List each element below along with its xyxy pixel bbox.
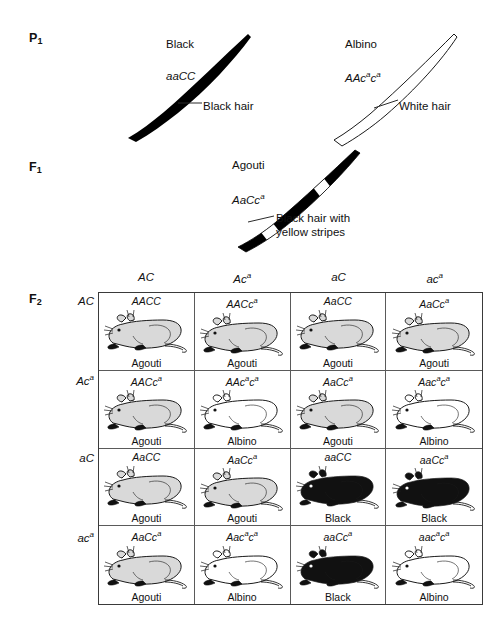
generation-label-f1: F1	[29, 160, 42, 174]
punnett-cell-7: Aacaca Albino	[386, 371, 482, 449]
f2-letter: F	[29, 292, 37, 306]
punnett-cell-genotype: AaCca	[227, 451, 257, 466]
punnett-cell-phenotype: Albino	[195, 591, 290, 603]
punnett-cell-14: aaCca Black	[291, 526, 387, 604]
punnett-cell-12: AaCca Agouti	[99, 526, 195, 604]
agouti-hair-callout: Black hair with yellow stripes	[276, 212, 350, 239]
punnett-cell-mouse	[391, 310, 477, 361]
black-hair-shaft-illustration	[120, 30, 265, 145]
punnett-cell-phenotype: Agouti	[99, 591, 194, 603]
punnett-cell-mouse	[295, 307, 381, 358]
punnett-cell-genotype: AaCC	[132, 451, 160, 463]
agouti-hair-callout-line2: yellow stripes	[276, 226, 350, 240]
punnett-cell-15: aacaca Albino	[386, 526, 482, 604]
punnett-cell-mouse	[391, 465, 477, 516]
mouse-illustration-black	[295, 544, 381, 590]
punnett-cell-mouse	[391, 387, 477, 438]
agouti-hair-callout-line1: Black hair with	[276, 212, 350, 226]
mouse-illustration-black	[295, 464, 381, 510]
punnett-cell-genotype: aaCca	[420, 451, 449, 466]
punnett-cell-genotype: Aacaca	[226, 528, 258, 543]
f1-subscript: 1	[37, 165, 42, 175]
punnett-cell-phenotype: Agouti	[99, 512, 194, 524]
punnett-row-header-3: aca	[56, 530, 94, 544]
punnett-cell-genotype: AaCca	[419, 295, 449, 310]
punnett-cell-6: AaCca Agouti	[291, 371, 387, 449]
punnett-square-grid: AACC AgoutiAACca	[98, 292, 483, 605]
punnett-column-header-2: aC	[291, 271, 387, 283]
punnett-cell-phenotype: Albino	[195, 435, 290, 447]
f1-letter: F	[29, 160, 37, 174]
black-hair-callout: Black hair	[203, 100, 254, 114]
punnett-cell-mouse	[295, 543, 381, 594]
generation-label-f2: F2	[29, 292, 42, 306]
punnett-cell-8: AaCC Agouti	[99, 449, 195, 527]
mouse-illustration-black	[391, 466, 477, 512]
punnett-cell-genotype: AaCC	[324, 295, 352, 307]
mouse-illustration-agouti	[103, 308, 189, 354]
punnett-cell-mouse	[103, 463, 189, 514]
punnett-column-header-1: Aca	[194, 271, 290, 285]
mouse-illustration-agouti	[103, 388, 189, 434]
punnett-cell-mouse	[199, 543, 285, 594]
mouse-illustration-agouti	[103, 544, 189, 590]
punnett-cell-genotype: AaCca	[131, 528, 161, 543]
punnett-cell-phenotype: Black	[291, 512, 386, 524]
mouse-illustration-albino	[199, 388, 285, 434]
mouse-illustration-albino	[199, 544, 285, 590]
white-hair-shaft-illustration	[320, 30, 465, 148]
punnett-cell-3: AaCca Agouti	[386, 293, 482, 371]
punnett-cell-10: aaCC Black	[291, 449, 387, 527]
mouse-illustration-agouti	[103, 464, 189, 510]
punnett-cell-mouse	[295, 387, 381, 438]
mouse-illustration-albino	[391, 544, 477, 590]
punnett-cell-genotype: Aacaca	[418, 373, 450, 388]
punnett-cell-mouse	[103, 543, 189, 594]
punnett-cell-phenotype: Agouti	[195, 357, 290, 369]
punnett-cell-13: Aacaca Albino	[195, 526, 291, 604]
punnett-cell-1: AACca Agouti	[195, 293, 291, 371]
mouse-illustration-agouti	[391, 311, 477, 357]
punnett-cell-genotype: AACC	[132, 295, 161, 307]
punnett-cell-mouse	[295, 463, 381, 514]
punnett-column-header-3: aca	[387, 271, 483, 285]
punnett-cell-phenotype: Agouti	[99, 435, 194, 447]
punnett-cell-2: AaCC Agouti	[291, 293, 387, 371]
punnett-cell-11: aaCca Black	[386, 449, 482, 527]
punnett-cell-phenotype: Albino	[386, 435, 482, 447]
punnett-cell-genotype: AAcaca	[226, 373, 259, 388]
black-hair-leader-line	[178, 98, 204, 108]
p1-subscript: 1	[38, 36, 43, 46]
punnett-cell-genotype: AACca	[227, 295, 258, 310]
punnett-row-header-0: AC	[56, 295, 94, 307]
mouse-illustration-agouti	[295, 388, 381, 434]
punnett-cell-phenotype: Albino	[386, 591, 482, 603]
punnett-cell-mouse	[103, 387, 189, 438]
punnett-cell-phenotype: Agouti	[291, 357, 386, 369]
punnett-cell-phenotype: Agouti	[99, 357, 194, 369]
punnett-cell-genotype: AaCca	[323, 373, 353, 388]
punnett-cell-genotype: aacaca	[419, 528, 450, 543]
mouse-illustration-agouti	[199, 311, 285, 357]
punnett-cell-mouse	[103, 307, 189, 358]
mouse-illustration-agouti	[295, 308, 381, 354]
punnett-cell-phenotype: Agouti	[291, 435, 386, 447]
punnett-cell-9: AaCca Agouti	[195, 449, 291, 527]
punnett-cell-genotype: AACca	[131, 373, 162, 388]
punnett-cell-mouse	[199, 310, 285, 361]
mouse-illustration-agouti	[199, 466, 285, 512]
punnett-cell-phenotype: Black	[291, 591, 386, 603]
punnett-cell-phenotype: Agouti	[386, 357, 482, 369]
punnett-cell-0: AACC Agouti	[99, 293, 195, 371]
white-hair-callout: White hair	[399, 100, 451, 114]
punnett-row-header-2: aC	[56, 452, 94, 464]
punnett-cell-5: AAcaca Albino	[195, 371, 291, 449]
punnett-cell-mouse	[199, 465, 285, 516]
white-hair-leader-line	[374, 98, 400, 112]
punnett-cell-4: AACca Agouti	[99, 371, 195, 449]
punnett-cell-phenotype: Agouti	[195, 512, 290, 524]
punnett-row-header-1: Aca	[56, 373, 94, 387]
p1-letter: P	[29, 31, 38, 45]
punnett-cell-genotype: aaCC	[324, 451, 351, 463]
punnett-cell-genotype: aaCca	[324, 528, 353, 543]
